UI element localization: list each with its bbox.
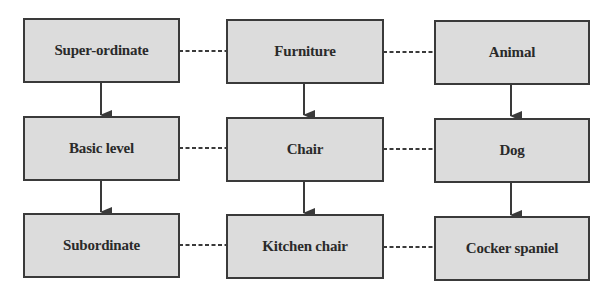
node-basic-level: Basic level xyxy=(23,116,180,181)
node-label: Subordinate xyxy=(63,237,140,254)
node-super-ordinate: Super-ordinate xyxy=(23,18,180,83)
node-furniture: Furniture xyxy=(226,19,384,84)
node-label: Furniture xyxy=(274,43,335,60)
node-label: Animal xyxy=(489,44,535,61)
node-label: Kitchen chair xyxy=(262,238,347,255)
node-label: Super-ordinate xyxy=(54,42,148,59)
category-hierarchy-diagram: Super-ordinate Furniture Animal Basic le… xyxy=(0,0,613,298)
node-label: Chair xyxy=(287,141,324,158)
node-animal: Animal xyxy=(434,20,590,85)
node-dog: Dog xyxy=(434,118,590,183)
node-label: Dog xyxy=(499,142,524,159)
node-subordinate: Subordinate xyxy=(23,213,180,278)
node-cocker-spaniel: Cocker spaniel xyxy=(434,216,590,281)
node-label: Basic level xyxy=(69,140,134,157)
node-chair: Chair xyxy=(226,117,384,182)
node-label: Cocker spaniel xyxy=(466,240,558,257)
node-kitchen-chair: Kitchen chair xyxy=(226,214,384,279)
